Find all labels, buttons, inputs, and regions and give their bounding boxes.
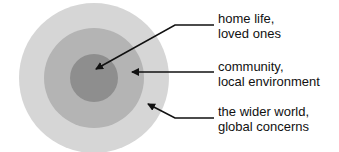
label-line: local environment [218,74,320,89]
label-wider-world: the wider world, global concerns [218,104,309,134]
label-line: community, [218,59,320,74]
label-home-life: home life, loved ones [218,11,281,41]
label-line: loved ones [218,26,281,41]
label-line: home life, [218,11,281,26]
label-line: global concerns [218,119,309,134]
label-community: community, local environment [218,59,320,89]
label-line: the wider world, [218,104,309,119]
